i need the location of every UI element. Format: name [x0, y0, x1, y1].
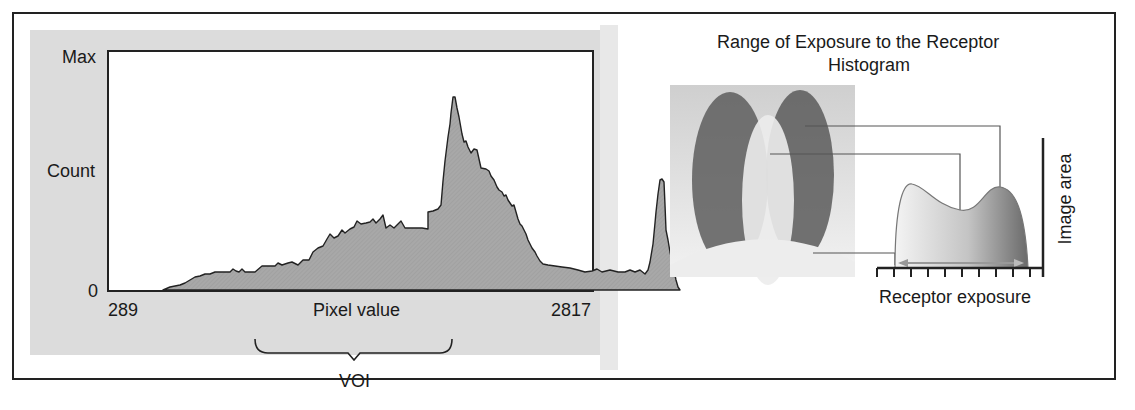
image-area-label: Image area: [1056, 153, 1074, 244]
receptor-exposure-label: Receptor exposure: [879, 288, 1031, 306]
x-axis-ticks: [877, 268, 1043, 277]
right-title-line1: Range of Exposure to the Receptor: [717, 33, 999, 51]
right-title-line2: Histogram: [828, 56, 910, 74]
chest-xray-image: [670, 85, 855, 285]
exposure-histogram-curve: [895, 184, 1028, 268]
exposure-range-diagram: [0, 0, 1135, 410]
